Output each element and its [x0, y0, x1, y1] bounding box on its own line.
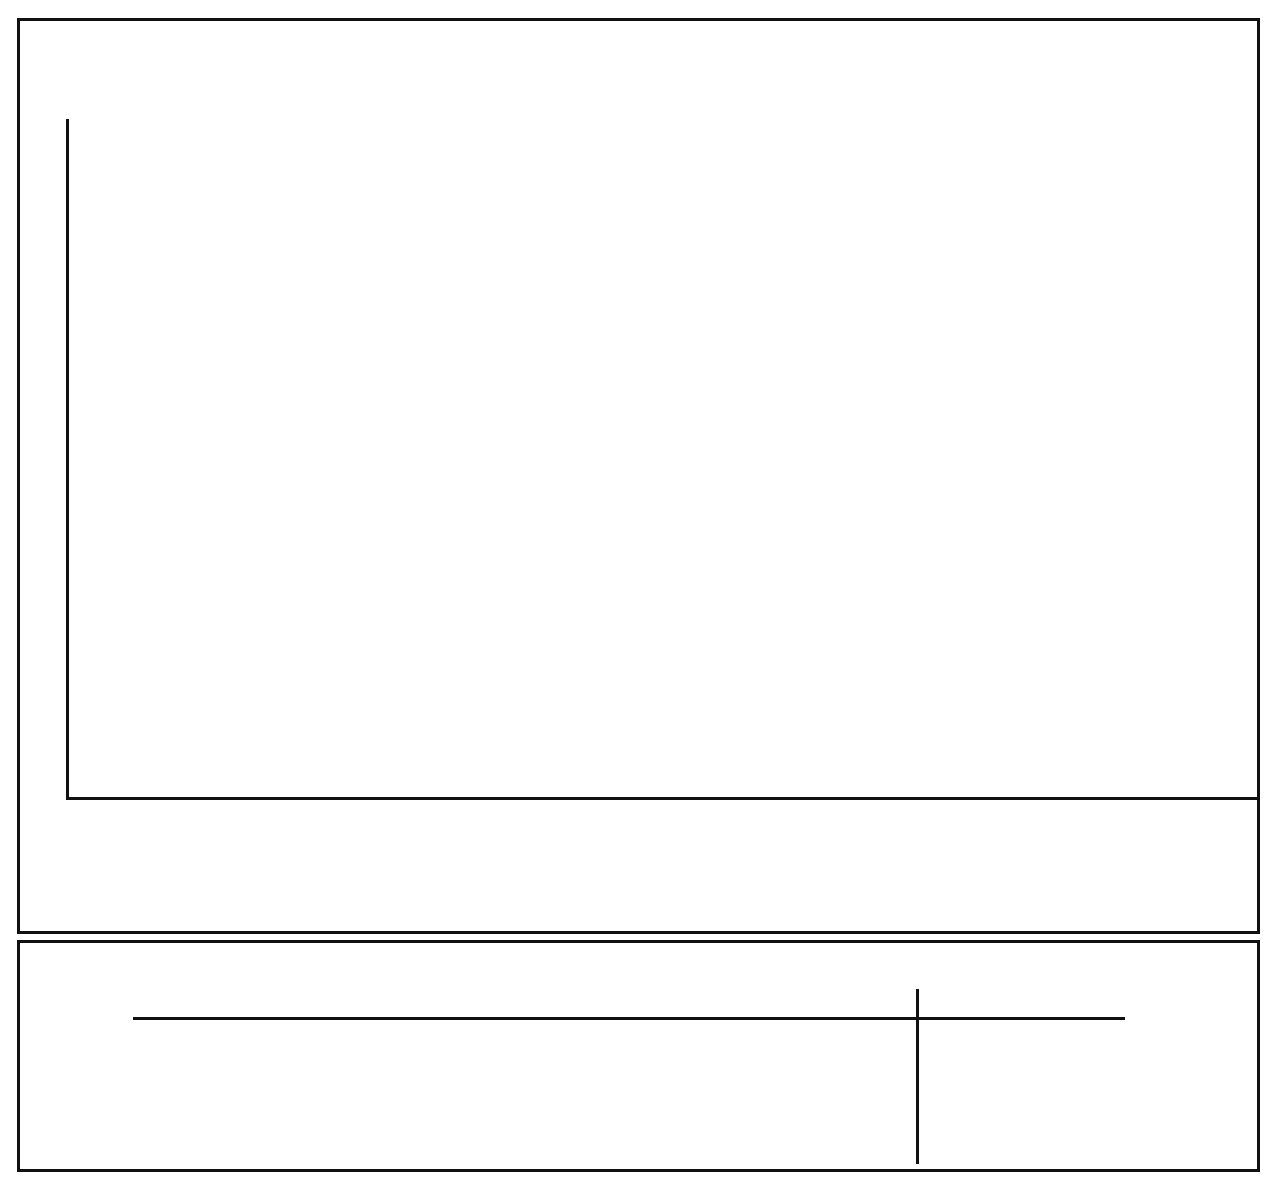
table-header-row: [130, 988, 1136, 996]
table-panel: [17, 940, 1260, 1172]
summary-table: [130, 988, 1136, 996]
table-header-percent: [932, 988, 1136, 996]
table-header-millions: [672, 988, 932, 996]
table-header-rule: [133, 1017, 1125, 1020]
table-column-divider: [916, 989, 919, 1164]
y-axis-line: [66, 119, 69, 800]
chart-panel: [17, 18, 1260, 934]
plot-area: [20, 21, 1263, 937]
page-top-scan-artifact: [0, 0, 1278, 12]
x-axis-line: [66, 797, 1260, 800]
table-header-label: [130, 988, 672, 996]
